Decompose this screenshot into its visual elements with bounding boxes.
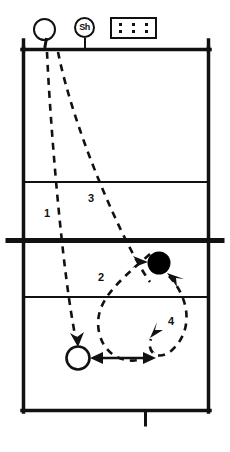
- player-move-double-arrow: [90, 352, 156, 364]
- movement-paths: [47, 52, 187, 361]
- path-label-2: 2: [98, 271, 104, 283]
- path-label-3: 3: [88, 192, 94, 204]
- path-label-1: 1: [44, 207, 50, 219]
- double-arrow-head-right: [143, 352, 156, 364]
- path-pass-2: [98, 254, 154, 361]
- filled-ball-marker: [148, 252, 171, 275]
- arrow-into-player-top: [70, 332, 84, 347]
- open-circle-player-marker: [67, 347, 90, 370]
- arrow-into-loop-left: [150, 322, 163, 338]
- double-arrow-head-left: [90, 352, 103, 364]
- court-lines: [8, 40, 222, 425]
- arrow-into-ball-lower-right: [167, 273, 184, 287]
- path-label-4: 4: [168, 315, 175, 327]
- path-serve-3: [58, 52, 150, 282]
- court-svg: 1 3 2 4: [0, 0, 230, 452]
- volleyball-drill-diagram: Sh: [0, 0, 230, 452]
